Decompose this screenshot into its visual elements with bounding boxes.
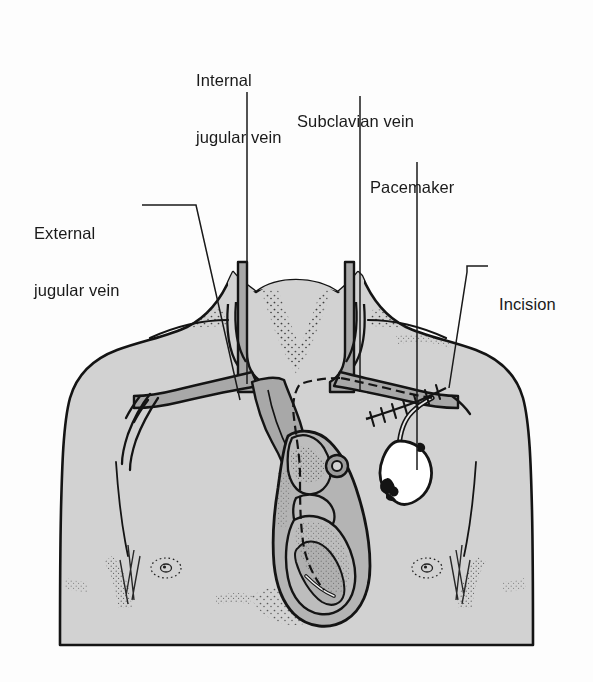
label-incision-line1: Incision [499,295,556,314]
label-pacemaker: Pacemaker [370,140,454,235]
label-external-jugular-vein-line2: jugular vein [34,281,120,300]
label-internal-jugular-vein-line2: jugular vein [196,128,282,147]
pacemaker-anatomy-figure: Internal jugular vein Subclavian vein Pa… [0,0,593,682]
label-external-jugular-vein: External jugular vein [34,186,120,338]
label-subclavian-vein-line1: Subclavian vein [297,112,414,131]
label-incision: Incision [499,257,556,352]
label-pacemaker-line1: Pacemaker [370,178,454,197]
label-external-jugular-vein-line1: External [34,224,120,243]
label-internal-jugular-vein: Internal jugular vein [196,33,282,185]
pacemaker-generator [380,441,432,504]
label-internal-jugular-vein-line1: Internal [196,71,282,90]
